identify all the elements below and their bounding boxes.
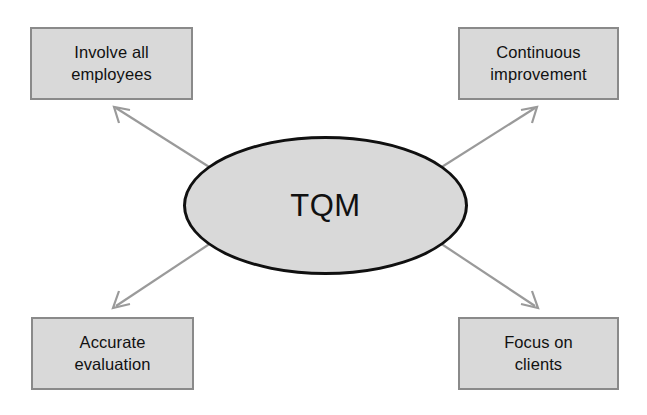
arrow-to-focus-on-clients (437, 241, 538, 308)
node-label-involve-all-employees: Involve allemployees (67, 42, 156, 86)
tqm-diagram-canvas: Involve allemployees Continuousimproveme… (0, 0, 647, 415)
center-node-tqm[interactable]: TQM (183, 136, 468, 275)
center-node-label: TQM (290, 190, 360, 221)
node-involve-all-employees[interactable]: Involve allemployees (30, 27, 193, 100)
node-continuous-improvement[interactable]: Continuousimprovement (458, 27, 619, 100)
node-label-continuous-improvement: Continuousimprovement (486, 42, 590, 86)
node-label-accurate-evaluation: Accurateevaluation (70, 332, 154, 376)
arrow-to-continuous-improvement (437, 107, 537, 170)
arrow-to-accurate-evaluation (113, 241, 214, 308)
node-accurate-evaluation[interactable]: Accurateevaluation (31, 317, 194, 390)
node-focus-on-clients[interactable]: Focus onclients (458, 317, 619, 390)
arrow-to-involve-all-employees (114, 107, 214, 170)
node-label-focus-on-clients: Focus onclients (500, 332, 577, 376)
